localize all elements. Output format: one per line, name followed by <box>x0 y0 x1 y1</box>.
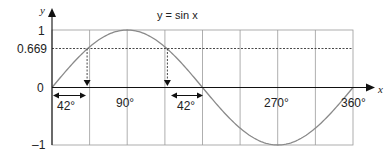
y-axis-label: y <box>39 4 45 16</box>
angle-label-right: 42° <box>177 99 195 113</box>
angle-label-left: 42° <box>57 99 75 113</box>
axes <box>52 14 368 145</box>
x-tick-270: 270° <box>264 96 289 110</box>
y-tick-0669: 0.669 <box>17 42 47 56</box>
sine-chart: y x y = sin x 1 0.669 0 –1 90° 270° 360°… <box>0 0 392 159</box>
x-tick-360: 360° <box>341 96 366 110</box>
x-tick-90: 90° <box>116 96 134 110</box>
y-tick-0: 0 <box>37 81 44 95</box>
y-tick-neg1: –1 <box>32 138 46 152</box>
x-axis-arrow-icon <box>366 84 375 92</box>
x-axis-label: x <box>377 83 383 95</box>
y-tick-1: 1 <box>38 24 45 38</box>
chart-title: y = sin x <box>157 9 198 21</box>
y-axis-arrow-icon <box>48 8 56 17</box>
